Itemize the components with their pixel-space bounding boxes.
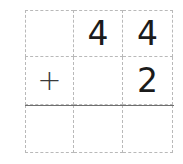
cell-r2c3-value: 2 [137, 64, 158, 97]
cell-r1c2-value: 4 [88, 17, 109, 50]
cell-r3c2[interactable] [74, 105, 123, 153]
addition-worksheet: 4 4 + 2 [25, 10, 173, 153]
cell-r3c1[interactable] [25, 105, 74, 153]
cell-r1c1[interactable] [25, 10, 74, 57]
worksheet-grid: 4 4 + 2 [25, 10, 173, 153]
cell-r2c3[interactable]: 2 [123, 57, 173, 105]
cell-r2c2[interactable] [74, 57, 123, 105]
cell-r2c1[interactable]: + [25, 57, 74, 105]
cell-r1c3-value: 4 [137, 17, 158, 50]
cell-r3c3[interactable] [123, 105, 173, 153]
cell-r1c2[interactable]: 4 [74, 10, 123, 57]
cell-r1c3[interactable]: 4 [123, 10, 173, 57]
plus-operator: + [37, 66, 61, 95]
